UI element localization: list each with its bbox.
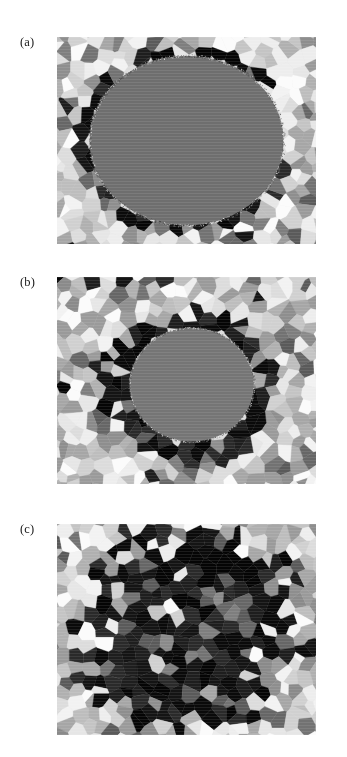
- panel-label-c: (c): [20, 523, 34, 536]
- micrograph-b-canvas: [57, 277, 316, 484]
- micrograph-panel-b: [57, 277, 316, 484]
- figure-root: (a) (b) (c): [0, 0, 347, 757]
- micrograph-a-canvas: [57, 37, 316, 244]
- micrograph-c-canvas: [57, 524, 316, 735]
- micrograph-panel-c: [57, 524, 316, 735]
- micrograph-panel-a: [57, 37, 316, 244]
- panel-label-a: (a): [20, 36, 34, 49]
- panel-label-b: (b): [20, 276, 35, 289]
